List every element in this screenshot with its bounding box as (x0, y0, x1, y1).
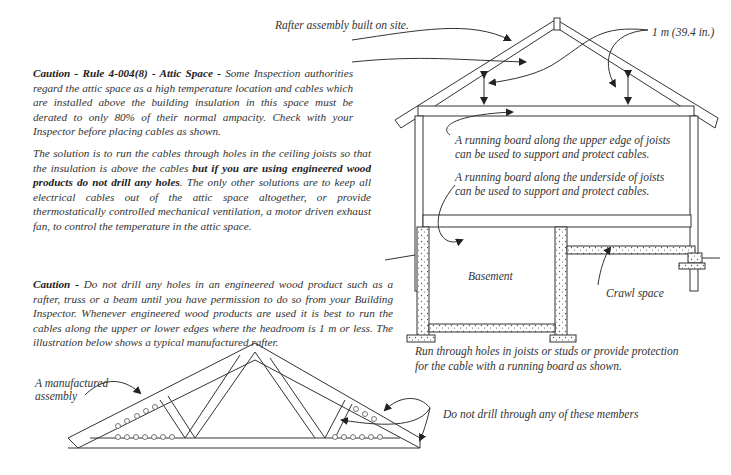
engineered-caution-heading: Caution - (33, 278, 79, 290)
label-manufactured-assembly: A manufactured assembly (35, 377, 108, 403)
basement-wall-right (555, 227, 567, 337)
label-rafter-site: Rafter assembly built on site. (275, 19, 409, 31)
basement-wall-left (417, 227, 429, 337)
paragraph-engineered-caution: Caution - Do not drill any holes in an e… (33, 277, 393, 350)
label-do-not-drill: Do not drill through any of these member… (443, 408, 638, 420)
footing-right (550, 335, 576, 342)
crawl-wall (688, 253, 702, 263)
label-running-board-upper: A running board along the upper edge of … (455, 133, 670, 161)
crawl-slab (567, 246, 695, 254)
label-headroom: 1 m (39.4 in.) (652, 26, 714, 38)
ceiling-joist (418, 106, 694, 116)
paragraph-attic-caution: Caution - Rule 4-004(8) - Attic Space - … (33, 66, 353, 139)
label-run-through: Run through holes in joists or studs or … (415, 344, 679, 373)
basement-slab (429, 324, 555, 332)
floor-joist (423, 215, 691, 227)
label-basement: Basement (468, 270, 513, 282)
ridge-board (554, 18, 560, 30)
label-running-board-under: A running board along the underside of j… (455, 170, 664, 198)
attic-caution-heading: Caution - Rule 4-004(8) - Attic Space - (33, 67, 221, 79)
manufactured-truss (68, 343, 420, 448)
footing-crawl (679, 263, 705, 269)
paragraph-solution: The solution is to run the cables throug… (33, 146, 371, 234)
label-crawl-space: Crawl space (606, 287, 664, 299)
footing-left (407, 335, 435, 342)
